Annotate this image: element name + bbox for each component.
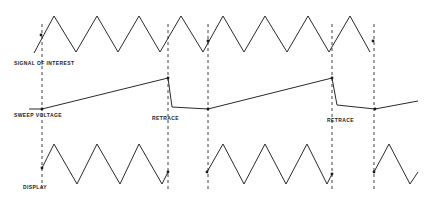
retrace-label-2: RETRACE [327, 117, 354, 123]
display-segment [42, 144, 168, 184]
sync-lines [42, 24, 374, 190]
marker-dot [207, 108, 210, 111]
marker-dot [373, 171, 376, 174]
retrace-label-1: RETRACE [152, 115, 179, 121]
sweep-voltage-waveform [29, 78, 418, 109]
marker-dot [331, 173, 334, 176]
display-label: DISPLAY [23, 184, 47, 190]
marker-dot [40, 34, 43, 37]
display-segment [374, 144, 418, 184]
marker-dot [207, 40, 210, 43]
marker-dot [167, 171, 170, 174]
marker-dot [374, 108, 377, 111]
signal-of-interest-waveform [34, 16, 370, 53]
marker-dot [372, 40, 375, 43]
display-waveform [42, 144, 418, 184]
sweep-voltage-label: SWEEP VOLTAGE [14, 112, 62, 118]
marker-dot [206, 171, 209, 174]
marker-dot [167, 77, 170, 80]
marker-dot [41, 167, 44, 170]
marker-dot [41, 108, 44, 111]
display-segment [207, 144, 332, 184]
marker-dot [331, 77, 334, 80]
sweep-timing-diagram [0, 0, 432, 199]
sweep-segment [29, 78, 418, 109]
signal-of-interest-label: SIGNAL OF INTEREST [14, 60, 74, 66]
